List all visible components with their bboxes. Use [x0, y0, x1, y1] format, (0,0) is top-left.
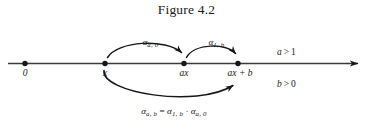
alpha-subscript-term2: a, 0: [196, 110, 207, 117]
dot-operator: ·: [183, 106, 191, 116]
point-dot-ax: [181, 61, 186, 66]
condition-operator: >: [282, 79, 291, 89]
axis-label-x: x: [103, 69, 107, 79]
condition-operator: >: [282, 47, 291, 57]
alpha-subscript-term1: 1, b: [172, 110, 183, 117]
condition-row-b: b>0: [277, 79, 296, 90]
condition-value: 1: [291, 47, 296, 57]
point-dot-x: [102, 61, 107, 66]
equals-sign: =: [157, 106, 167, 116]
alpha-subscript: 1, b: [213, 41, 224, 48]
condition-value: 0: [291, 79, 296, 89]
arc-label-alpha-1-b: α1, b: [199, 29, 224, 56]
point-dot-ax-plus-b: [235, 61, 240, 66]
condition-row-a: a>1: [277, 47, 296, 58]
arc-label-alpha-a-0: αa, 0: [133, 29, 158, 56]
conditions-block: a>1 b>0: [277, 26, 296, 110]
composition-equation: αa, b = α1, b · αa, 0: [141, 107, 207, 116]
axis-label-ax: ax: [180, 69, 189, 79]
figure-4-2: Figure 4.2 0 x ax ax + b αa, 0: [0, 0, 373, 125]
alpha-subscript: a, 0: [147, 41, 158, 48]
axis-label-origin: 0: [23, 69, 28, 79]
alpha-glyph: α: [167, 106, 172, 116]
point-dot-origin: [22, 61, 27, 66]
axis-label-ax-plus-b: ax + b: [228, 69, 253, 79]
arc-alpha-a-b-path: [104, 71, 233, 97]
alpha-subscript-lhs: a, b: [146, 110, 157, 117]
